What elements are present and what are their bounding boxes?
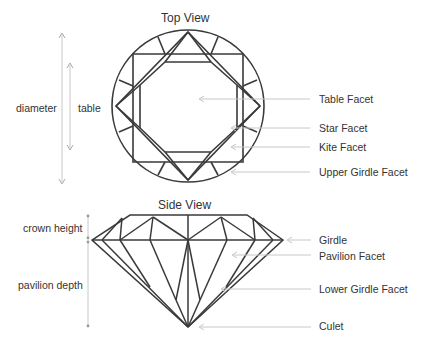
pavilion-facet-label: Pavilion Facet (319, 250, 385, 262)
upper-girdle-facet-label: Upper Girdle Facet (319, 166, 408, 178)
table-label: table (78, 102, 101, 114)
girdle-label: Girdle (319, 234, 347, 246)
star-facet-label: Star Facet (319, 122, 367, 134)
side-view-title: Side View (158, 198, 211, 212)
diameter-label: diameter (16, 102, 57, 114)
pavilion-depth-label: pavilion depth (18, 279, 83, 291)
table-facet-label: Table Facet (319, 93, 373, 105)
kite-facet-label: Kite Facet (319, 141, 366, 153)
crown-height-label: crown height (23, 222, 83, 234)
top-view-diamond (112, 30, 264, 182)
side-view-diamond (92, 215, 283, 327)
lower-girdle-facet-label: Lower Girdle Facet (319, 283, 408, 295)
culet-label: Culet (319, 320, 344, 332)
top-view-title: Top View (161, 11, 209, 25)
